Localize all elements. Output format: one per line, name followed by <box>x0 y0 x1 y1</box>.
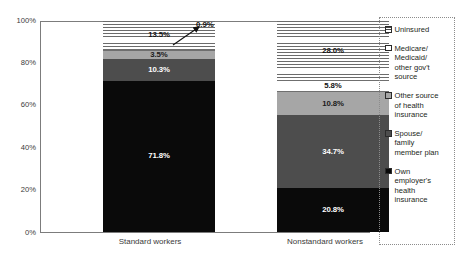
bar-nonstandard-workers[interactable]: 20.8% 34.7% 10.8% 5.8% 28.0% <box>277 21 389 232</box>
bar-standard-workers[interactable]: 71.8% 10.3% 3.5% 0.9% 13.5% <box>103 21 215 232</box>
callout-label-0-9: 0.9% <box>196 20 214 29</box>
legend: Uninsured Medicare/ Medicaid/ other gov'… <box>379 17 455 245</box>
legend-swatch-other-source-icon <box>385 92 392 99</box>
segment-value: 13.5% <box>148 31 170 39</box>
segment-value: 10.8% <box>322 100 344 108</box>
segment-value: 28.0% <box>322 47 344 55</box>
segment-medicare-medicaid[interactable]: 0.9% <box>103 49 215 51</box>
segment-spouse-family[interactable]: 10.3% <box>103 59 215 81</box>
y-tick-40: 40% <box>2 144 36 152</box>
legend-label: Medicare/ Medicaid/ other gov't source <box>395 44 430 82</box>
legend-label: Other source of health insurance <box>395 91 439 120</box>
y-tick-100: 100% <box>2 17 36 25</box>
legend-item-other-source[interactable]: Other source of health insurance <box>385 91 450 120</box>
y-tick-0: 0% <box>2 229 36 237</box>
legend-swatch-medicare-medicaid-icon <box>385 45 392 52</box>
plot-area: 71.8% 10.3% 3.5% 0.9% 13.5% 20.8% 34.7% <box>40 21 370 233</box>
segment-other-source[interactable]: 3.5% <box>103 51 215 58</box>
segment-value: 34.7% <box>322 148 344 156</box>
segment-spouse-family[interactable]: 34.7% <box>277 115 389 188</box>
segment-uninsured[interactable]: 28.0% <box>277 21 389 80</box>
y-axis: 100% 80% 60% 40% 20% 0% <box>0 0 36 269</box>
legend-item-uninsured[interactable]: Uninsured <box>385 25 450 35</box>
segment-value: 10.3% <box>148 66 170 74</box>
segment-value: 20.8% <box>322 206 344 214</box>
legend-item-spouse-family[interactable]: Spouse/ family member plan <box>385 129 450 158</box>
segment-other-source[interactable]: 10.8% <box>277 92 389 115</box>
segment-value: 71.8% <box>148 152 170 160</box>
legend-label: Spouse/ family member plan <box>395 129 439 158</box>
legend-label: Uninsured <box>395 25 430 35</box>
legend-swatch-spouse-family-icon <box>385 130 392 137</box>
legend-item-medicare-medicaid[interactable]: Medicare/ Medicaid/ other gov't source <box>385 44 450 82</box>
segment-value: 3.5% <box>150 51 167 58</box>
legend-swatch-own-employer-icon <box>385 168 392 175</box>
stacked-bar-chart: 100% 80% 60% 40% 20% 0% 71.8% 10.3% 3.5%… <box>0 0 462 269</box>
legend-item-own-employer[interactable]: Own employer's health insurance <box>385 167 450 205</box>
legend-swatch-uninsured-icon <box>385 26 392 33</box>
y-tick-60: 60% <box>2 101 36 109</box>
y-tick-20: 20% <box>2 186 36 194</box>
segment-medicare-medicaid[interactable]: 5.8% <box>277 80 389 92</box>
legend-label: Own employer's health insurance <box>395 167 431 205</box>
segment-own-employer[interactable]: 20.8% <box>277 188 389 232</box>
y-tick-80: 80% <box>2 59 36 67</box>
segment-own-employer[interactable]: 71.8% <box>103 81 215 232</box>
segment-value: 5.8% <box>324 82 341 90</box>
